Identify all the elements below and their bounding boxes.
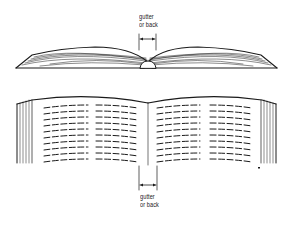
bottom-book-perspective-view (17, 97, 276, 190)
top-book-end-view (16, 34, 277, 68)
top-gutter-label-line1: gutter (139, 13, 158, 21)
bottom-gutter-label-line2: or back (140, 201, 159, 209)
bottom-gutter-label: gutter or back (140, 193, 159, 208)
bottom-gutter-label-line1: gutter (140, 193, 159, 201)
top-gutter-label: gutter or back (139, 13, 158, 28)
top-gutter-label-line2: or back (139, 21, 158, 29)
